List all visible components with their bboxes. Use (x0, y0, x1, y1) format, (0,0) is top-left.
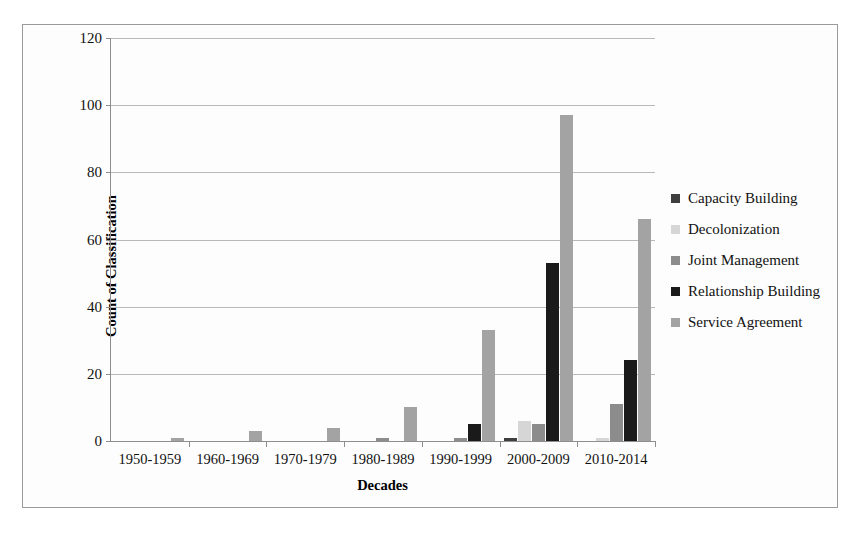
bar (610, 404, 623, 441)
legend-swatch-icon (671, 318, 680, 327)
legend-swatch-icon (671, 194, 680, 203)
legend-item-label: Decolonization (688, 221, 780, 238)
legend-item[interactable]: Joint Management (671, 245, 820, 276)
bar-group (111, 38, 189, 441)
legend-item-label: Capacity Building (688, 190, 798, 207)
legend-item-label: Service Agreement (688, 314, 803, 331)
x-tick-mark (577, 441, 578, 447)
x-tick-mark (344, 441, 345, 447)
bar-group (344, 38, 422, 441)
y-tick-label: 120 (80, 30, 103, 47)
x-tick-label: 1970-1979 (274, 451, 337, 468)
x-tick-label: 1990-1999 (429, 451, 492, 468)
y-tick-label: 100 (80, 97, 103, 114)
bar (171, 438, 184, 441)
bar (468, 424, 481, 441)
x-tick-mark (422, 441, 423, 447)
bars-layer (111, 38, 655, 441)
x-tick-label: 1950-1959 (118, 451, 181, 468)
bar (518, 421, 531, 441)
x-axis-title: Decades (110, 477, 655, 494)
bar (454, 438, 467, 441)
bar (532, 424, 545, 441)
bar (596, 438, 609, 441)
x-tick-mark (266, 441, 267, 447)
bar (327, 428, 340, 441)
legend-item[interactable]: Capacity Building (671, 183, 820, 214)
legend-swatch-icon (671, 256, 680, 265)
bar-group (266, 38, 344, 441)
bar (404, 407, 417, 441)
x-tick-label: 1980-1989 (352, 451, 415, 468)
y-tick-label: 0 (95, 433, 103, 450)
bar-group (189, 38, 267, 441)
bar (482, 330, 495, 441)
x-tick-label: 2000-2009 (507, 451, 570, 468)
bar-group (500, 38, 578, 441)
legend-item[interactable]: Decolonization (671, 214, 820, 245)
bar (624, 360, 637, 441)
legend-swatch-icon (671, 225, 680, 234)
bar (560, 115, 573, 441)
legend-swatch-icon (671, 287, 680, 296)
bar (638, 219, 651, 441)
chart-legend: Capacity BuildingDecolonizationJoint Man… (671, 183, 820, 338)
chart-frame: Count of Classification 020406080100120 … (22, 24, 838, 508)
x-tick-mark (655, 441, 656, 447)
legend-item-label: Joint Management (688, 252, 799, 269)
bar (504, 438, 517, 441)
y-tick-label: 20 (87, 365, 102, 382)
y-tick-label: 40 (87, 298, 102, 315)
plot-area: 020406080100120 1950-19591960-19691970-1… (110, 38, 655, 442)
bar (376, 438, 389, 441)
legend-item[interactable]: Service Agreement (671, 307, 820, 338)
y-tick-label: 60 (87, 231, 102, 248)
bar-group (422, 38, 500, 441)
y-tick-label: 80 (87, 164, 102, 181)
x-tick-mark (189, 441, 190, 447)
y-tick-mark (106, 441, 111, 442)
x-tick-mark (500, 441, 501, 447)
x-tick-label: 1960-1969 (196, 451, 259, 468)
bar (546, 263, 559, 441)
legend-item-label: Relationship Building (688, 283, 820, 300)
x-tick-label: 2010-2014 (585, 451, 648, 468)
bar (249, 431, 262, 441)
legend-item[interactable]: Relationship Building (671, 276, 820, 307)
bar-group (577, 38, 655, 441)
